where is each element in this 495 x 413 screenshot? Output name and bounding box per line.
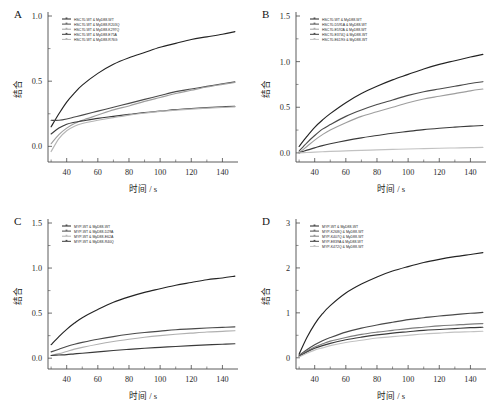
plot-b: 0.00.51.01.5406080100120140时间 / s结合HSC70… bbox=[248, 0, 495, 206]
x-tick-label: 60 bbox=[94, 168, 102, 177]
y-tick-label: 0.5 bbox=[32, 309, 42, 318]
legend-label: MYP-WT & MyD88-WT bbox=[74, 225, 111, 229]
legend-label: MYP-WT & MyD88-E62A bbox=[74, 235, 114, 239]
legend: MYP-WT & MyD88-WTMYP-K268Q & MyD88-WTMYP… bbox=[310, 225, 364, 249]
y-tick-label: 0 bbox=[286, 354, 290, 363]
x-axis-title: 时间 / s bbox=[129, 183, 158, 194]
legend-label: MYP-K268Q & MyD88-WT bbox=[322, 230, 364, 234]
x-tick-label: 80 bbox=[125, 168, 133, 177]
panel-b: B 0.00.51.01.5406080100120140时间 / s结合HSC… bbox=[248, 0, 495, 206]
x-axis-title: 时间 / s bbox=[377, 183, 406, 194]
y-tick-label: 3 bbox=[286, 219, 290, 228]
y-tick-label: 1.5 bbox=[280, 12, 290, 21]
x-tick-label: 80 bbox=[125, 375, 133, 384]
x-tick-label: 60 bbox=[342, 168, 350, 177]
legend-label: HSC70-WT & MyD88-WT bbox=[322, 18, 363, 22]
data-curve bbox=[51, 107, 235, 152]
data-curve bbox=[299, 147, 483, 152]
data-curve bbox=[299, 89, 483, 153]
legend-label: HSC70-WT & MyD88-K297Q bbox=[74, 28, 120, 32]
y-axis-title: 结合 bbox=[12, 287, 23, 305]
x-tick-label: 100 bbox=[154, 168, 166, 177]
data-curve bbox=[299, 312, 483, 355]
x-tick-label: 80 bbox=[373, 375, 381, 384]
data-curve bbox=[299, 126, 483, 153]
x-tick-label: 60 bbox=[94, 375, 102, 384]
legend-label: HSC70-E592A & MyD88-WT bbox=[322, 28, 368, 32]
legend-label: HSC70-E374Q & MyD88-WT bbox=[322, 33, 368, 37]
x-tick-label: 140 bbox=[464, 375, 476, 384]
x-tick-label: 40 bbox=[311, 375, 319, 384]
plot-d: 0123406080100120140时间 / s结合MYP-WT & MyD8… bbox=[248, 207, 495, 413]
legend-label: HSC70-E619G & MyD88-WT bbox=[322, 38, 368, 42]
legend-label: MYP-WT & MyD88-D29A bbox=[74, 230, 114, 234]
legend-label: MYP-K407Q & MyD88-WT bbox=[322, 235, 364, 239]
y-tick-label: 1.0 bbox=[32, 12, 42, 21]
x-tick-label: 100 bbox=[402, 168, 414, 177]
x-tick-label: 120 bbox=[185, 375, 197, 384]
x-tick-label: 120 bbox=[185, 168, 197, 177]
x-tick-label: 120 bbox=[433, 168, 445, 177]
legend: MYP-WT & MyD88-WTMYP-WT & MyD88-D29AMYP-… bbox=[62, 225, 114, 244]
legend-label: HSC70-WT & MyD88-R203Q bbox=[74, 23, 120, 27]
y-tick-label: 1 bbox=[286, 309, 290, 318]
plot-c: 0.00.51.01.5406080100120140时间 / s结合MYP-W… bbox=[0, 207, 247, 413]
x-tick-label: 40 bbox=[63, 168, 71, 177]
data-curve bbox=[51, 276, 235, 345]
x-tick-label: 140 bbox=[464, 168, 476, 177]
legend-label: HSC70-WT & MyD88-R76G bbox=[74, 38, 118, 42]
x-tick-label: 60 bbox=[342, 375, 350, 384]
y-tick-label: 1.5 bbox=[32, 219, 42, 228]
legend: HSC70-WT & MyD88-WTHSC70-WT & MyD88-R203… bbox=[62, 18, 120, 42]
data-curve bbox=[51, 344, 235, 356]
legend-label: MYP-WT & MyD88-WT bbox=[322, 225, 359, 229]
y-tick-label: 1.0 bbox=[280, 58, 290, 67]
panel-a: A 0.00.51.0406080100120140时间 / s结合HSC70-… bbox=[0, 0, 247, 206]
x-tick-label: 40 bbox=[311, 168, 319, 177]
y-axis-title: 结合 bbox=[260, 287, 271, 305]
panel-d: D 0123406080100120140时间 / s结合MYP-WT & My… bbox=[248, 207, 495, 413]
y-tick-label: 0.5 bbox=[32, 77, 42, 86]
y-tick-label: 0.0 bbox=[32, 142, 42, 151]
y-axis-title: 结合 bbox=[12, 80, 23, 98]
plot-a: 0.00.51.0406080100120140时间 / s结合HSC70-WT… bbox=[0, 0, 247, 206]
x-tick-label: 140 bbox=[216, 375, 228, 384]
x-axis-title: 时间 / s bbox=[377, 390, 406, 401]
x-tick-label: 100 bbox=[402, 375, 414, 384]
y-tick-label: 0.5 bbox=[280, 103, 290, 112]
legend-label: HSC70-WT & MyD88-E75A bbox=[74, 33, 118, 37]
legend-label: MYP-K472Q & MyD88-WT bbox=[322, 245, 364, 249]
legend-label: MYP-E839A & MyD88-WT bbox=[322, 240, 364, 244]
y-tick-label: 0.0 bbox=[280, 149, 290, 158]
y-tick-label: 2 bbox=[286, 264, 290, 273]
x-tick-label: 140 bbox=[216, 168, 228, 177]
x-tick-label: 80 bbox=[373, 168, 381, 177]
x-tick-label: 120 bbox=[433, 375, 445, 384]
y-tick-label: 1.0 bbox=[32, 264, 42, 273]
legend-label: MYP-WT & MyD88-R40Q bbox=[74, 240, 114, 244]
data-curve bbox=[51, 106, 235, 134]
x-tick-label: 40 bbox=[63, 375, 71, 384]
legend-label: HSC70-WT & MyD88-WT bbox=[74, 18, 115, 22]
y-tick-label: 0.0 bbox=[32, 354, 42, 363]
figure-container: A 0.00.51.0406080100120140时间 / s结合HSC70-… bbox=[0, 0, 495, 413]
legend: HSC70-WT & MyD88-WTHSC70-D591A & MyD88-W… bbox=[310, 18, 368, 42]
x-axis-title: 时间 / s bbox=[129, 390, 158, 401]
panel-c: C 0.00.51.01.5406080100120140时间 / s结合MYP… bbox=[0, 207, 247, 413]
y-axis-title: 结合 bbox=[260, 80, 271, 98]
legend-label: HSC70-D591A & MyD88-WT bbox=[322, 23, 368, 27]
x-tick-label: 100 bbox=[154, 375, 166, 384]
